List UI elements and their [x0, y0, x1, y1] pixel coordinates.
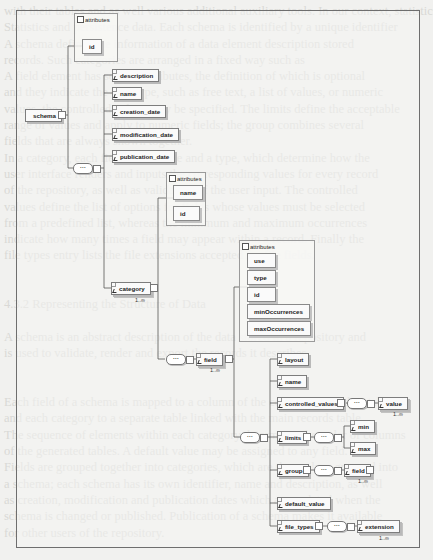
- element-schema[interactable]: schema: [25, 109, 62, 122]
- element-corner-icon: [278, 432, 282, 436]
- expand-toggle-sequence[interactable]: [334, 467, 342, 475]
- element-corner-icon: [113, 129, 117, 133]
- attributes-header[interactable]: attributes: [169, 175, 202, 182]
- element-corner-icon: [278, 398, 282, 402]
- cardinality-extension: 1..∞: [379, 535, 389, 541]
- element-corner-icon: [278, 376, 282, 380]
- attribute-max-occurrences[interactable]: maxOccurrences: [247, 321, 311, 336]
- element-mark-icon: [278, 382, 283, 386]
- sequence-compositor-file-types[interactable]: ···: [327, 521, 347, 532]
- expand-toggle-sequence[interactable]: [186, 356, 194, 364]
- element-mark-icon: [278, 438, 283, 442]
- element-mark-icon: [113, 157, 118, 161]
- expand-toggle-sequence[interactable]: [260, 434, 268, 442]
- element-min[interactable]: min: [350, 420, 375, 433]
- element-category[interactable]: category: [111, 282, 151, 295]
- sequence-compositor-controlled-values[interactable]: ···: [347, 398, 367, 409]
- element-mark-icon: [113, 76, 118, 80]
- expand-toggle-schema[interactable]: [58, 111, 66, 119]
- element-mark-icon: [278, 404, 283, 408]
- expand-toggle-controlled-values[interactable]: [337, 399, 345, 407]
- expand-toggle-sequence[interactable]: [347, 523, 355, 531]
- element-mark-icon: [351, 427, 356, 431]
- element-max[interactable]: max: [350, 442, 376, 455]
- element-description[interactable]: description: [112, 69, 159, 82]
- attribute-type[interactable]: type: [247, 270, 276, 285]
- element-corner-icon: [197, 354, 201, 358]
- attribute-id[interactable]: id: [247, 287, 276, 302]
- element-layout[interactable]: layout: [277, 353, 309, 366]
- element-corner-icon: [113, 70, 117, 74]
- sequence-compositor-group[interactable]: ···: [314, 465, 334, 476]
- collapse-icon[interactable]: [77, 16, 84, 23]
- element-name[interactable]: name: [277, 375, 307, 388]
- element-mark-icon: [113, 112, 118, 116]
- element-mark-icon: [197, 360, 202, 364]
- attribute-id[interactable]: id: [82, 39, 102, 54]
- sequence-compositor-field[interactable]: ···: [240, 432, 260, 443]
- element-corner-icon: [379, 398, 383, 402]
- element-corner-icon: [278, 498, 282, 502]
- element-corner-icon: [113, 106, 117, 110]
- element-modification-date[interactable]: modification_date: [112, 128, 179, 141]
- expand-toggle-sequence[interactable]: [334, 434, 342, 442]
- element-corner-icon: [112, 283, 116, 287]
- expand-toggle-sequence[interactable]: [367, 400, 375, 408]
- element-default-value[interactable]: default_value: [277, 497, 331, 510]
- element-mark-icon: [278, 360, 283, 364]
- element-mark-icon: [358, 527, 363, 531]
- expand-toggle-sequence[interactable]: [93, 165, 101, 173]
- expand-toggle-category[interactable]: [150, 284, 158, 292]
- cardinality-category: 1..∞: [135, 297, 145, 303]
- element-corner-icon: [278, 354, 282, 358]
- attributes-group-schema: attributes: [74, 13, 118, 62]
- element-extension[interactable]: extension: [357, 520, 400, 533]
- element-mark-icon: [351, 449, 356, 453]
- cardinality-value: 1..∞: [393, 411, 403, 417]
- collapse-icon[interactable]: [242, 243, 249, 250]
- element-corner-icon: [351, 443, 355, 447]
- element-corner-icon: [358, 521, 362, 525]
- attribute-use[interactable]: use: [247, 253, 276, 268]
- collapse-icon[interactable]: [169, 175, 176, 182]
- attributes-header[interactable]: attributes: [77, 16, 110, 23]
- element-label: schema: [33, 112, 56, 119]
- cardinality-group-field: 1..∞: [358, 478, 368, 484]
- element-mark-icon: [278, 504, 283, 508]
- element-corner-icon: [113, 88, 117, 92]
- expand-toggle-group[interactable]: [303, 466, 311, 474]
- expand-toggle-limits[interactable]: [303, 433, 311, 441]
- element-controlled-values[interactable]: controlled_values: [277, 397, 344, 410]
- element-mark-icon: [345, 471, 350, 475]
- attribute-id[interactable]: id: [173, 206, 200, 221]
- sequence-compositor-schema[interactable]: ···: [73, 163, 93, 174]
- element-file-types[interactable]: file_types: [277, 520, 320, 533]
- sequence-compositor-category[interactable]: ···: [166, 354, 186, 365]
- element-mark-icon: [278, 471, 283, 475]
- expand-toggle-file-types[interactable]: [315, 522, 323, 530]
- element-corner-icon: [113, 151, 117, 155]
- element-mark-icon: [379, 404, 384, 408]
- expand-toggle-field[interactable]: [225, 355, 233, 363]
- sequence-compositor-limits[interactable]: ···: [314, 432, 334, 443]
- element-mark-icon: [113, 135, 118, 139]
- element-name[interactable]: name: [112, 87, 142, 100]
- element-field[interactable]: field: [196, 353, 223, 366]
- element-mark-icon: [278, 527, 283, 531]
- element-corner-icon: [278, 465, 282, 469]
- attribute-min-occurrences[interactable]: minOccurrences: [247, 304, 310, 319]
- element-corner-icon: [345, 465, 349, 469]
- element-corner-icon: [278, 521, 282, 525]
- element-mark-icon: [112, 289, 117, 293]
- element-value[interactable]: value: [378, 397, 408, 410]
- attribute-name[interactable]: name: [173, 185, 203, 200]
- element-mark-icon: [113, 94, 118, 98]
- element-creation-date[interactable]: creation_date: [112, 105, 166, 118]
- expand-toggle-group-field[interactable]: [366, 466, 374, 474]
- element-publication-date[interactable]: publication_date: [112, 150, 175, 163]
- attributes-header[interactable]: attributes: [242, 243, 275, 250]
- cardinality-field: 1..∞: [210, 367, 220, 373]
- element-corner-icon: [351, 421, 355, 425]
